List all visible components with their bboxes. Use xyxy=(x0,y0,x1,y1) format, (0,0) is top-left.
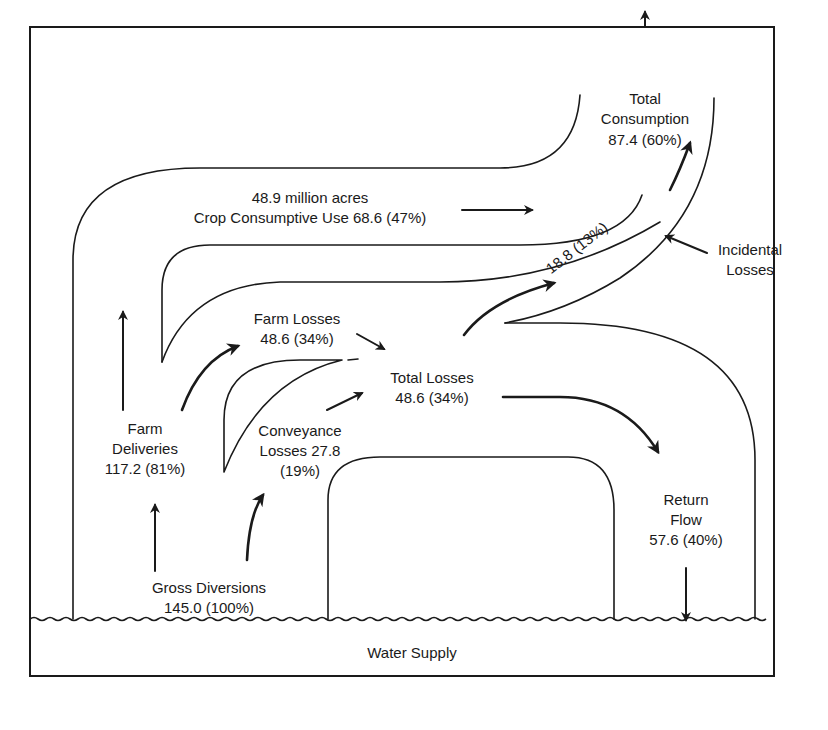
incidental-losses-label: Incidental Losses xyxy=(718,241,782,278)
svg-text:Return: Return xyxy=(663,491,708,508)
svg-text:Total: Total xyxy=(629,90,661,107)
svg-text:57.6 (40%): 57.6 (40%) xyxy=(649,531,722,548)
svg-text:Losses: Losses xyxy=(726,261,774,278)
farm-losses-label: Farm Losses 48.6 (34%) xyxy=(254,310,341,347)
svg-text:Consumption: Consumption xyxy=(601,110,689,127)
svg-text:Crop Consumptive Use 68.6 (47%: Crop Consumptive Use 68.6 (47%) xyxy=(194,209,427,226)
arrow-gross-to-conveyance xyxy=(247,495,263,560)
svg-text:Farm: Farm xyxy=(128,420,163,437)
return-flow-label: Return Flow 57.6 (40%) xyxy=(649,491,722,548)
water-supply-region: Water Supply xyxy=(30,618,766,662)
water-surface-wave xyxy=(30,618,766,621)
gross-diversions-label: Gross Diversions 145.0 (100%) xyxy=(152,579,266,616)
return-flow-outer-edge xyxy=(505,323,755,619)
svg-text:Farm Losses: Farm Losses xyxy=(254,310,341,327)
arrow-to-consumption xyxy=(670,143,690,190)
total-losses-label: Total Losses 48.6 (34%) xyxy=(390,369,473,406)
svg-text:Deliveries: Deliveries xyxy=(112,440,178,457)
conveyance-dash xyxy=(348,359,358,360)
crop-use-label: 48.9 million acres Crop Consumptive Use … xyxy=(194,189,427,226)
return-flow-inner-arch xyxy=(328,457,614,619)
svg-text:Incidental: Incidental xyxy=(718,241,782,258)
svg-text:48.6 (34%): 48.6 (34%) xyxy=(260,330,333,347)
svg-text:117.2 (81%): 117.2 (81%) xyxy=(105,460,186,477)
svg-text:145.0 (100%): 145.0 (100%) xyxy=(164,599,254,616)
svg-text:48.9 million acres: 48.9 million acres xyxy=(252,189,369,206)
svg-text:Total Losses: Total Losses xyxy=(390,369,473,386)
arrow-incidental-losses xyxy=(666,236,707,253)
svg-text:Conveyance: Conveyance xyxy=(258,422,341,439)
irrigation-flow-diagram: Water Supply Total Consumption 87.4 (60%… xyxy=(0,0,828,730)
arrow-to-return-flow xyxy=(503,397,658,452)
svg-text:Gross Diversions: Gross Diversions xyxy=(152,579,266,596)
total-consumption-label: Total Consumption 87.4 (60%) xyxy=(601,90,689,148)
water-supply-label: Water Supply xyxy=(367,644,457,661)
arrow-to-farm-losses xyxy=(182,346,238,410)
farm-deliveries-label: Farm Deliveries 117.2 (81%) xyxy=(105,420,186,477)
svg-text:Flow: Flow xyxy=(670,511,702,528)
conveyance-losses-label: Conveyance Losses 27.8 (19%) xyxy=(258,422,341,479)
svg-text:87.4 (60%): 87.4 (60%) xyxy=(608,131,681,148)
svg-text:(19%): (19%) xyxy=(280,462,320,479)
svg-text:Losses 27.8: Losses 27.8 xyxy=(260,442,341,459)
arrow-conveyance-to-total xyxy=(327,393,362,410)
arrow-to-incidental xyxy=(464,283,554,335)
outer-pipe-edge xyxy=(73,95,580,619)
svg-text:48.6 (34%): 48.6 (34%) xyxy=(395,389,468,406)
arrow-farm-losses-to-total xyxy=(357,334,384,349)
incidental-value-label: 18.8 (13%) xyxy=(542,218,610,277)
